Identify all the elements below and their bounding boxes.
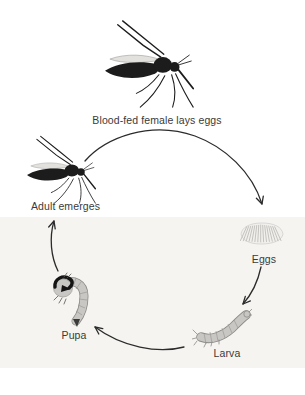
label-blood-fed-female: Blood-fed female lays eggs [60, 113, 254, 127]
life-cycle-diagram: Blood-fed female lays eggs Eggs Larva Pu… [0, 0, 305, 395]
label-adult-emerges: Adult emerges [15, 199, 116, 213]
larva-icon [192, 303, 252, 349]
arrow-eggs-to-larva-icon [243, 267, 261, 304]
pupa-icon [50, 272, 94, 328]
label-larva: Larva [197, 346, 257, 360]
adult-mosquito-icon [23, 131, 107, 207]
blood-fed-mosquito-icon [100, 14, 208, 112]
label-eggs: Eggs [234, 252, 294, 266]
arrow-larva-to-pupa-icon [95, 327, 184, 350]
arrow-blood-fed-to-eggs-icon [85, 130, 263, 204]
arrow-pupa-to-adult-icon [49, 221, 58, 271]
label-pupa: Pupa [44, 328, 104, 342]
egg-raft-icon [238, 220, 286, 247]
